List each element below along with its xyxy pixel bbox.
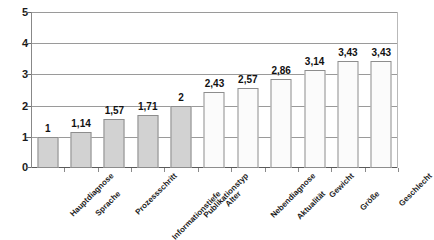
bar-slot: 3,43	[365, 12, 398, 168]
bar[interactable]	[271, 79, 292, 168]
bar-value-label: 1,71	[138, 102, 157, 112]
bar-value-label: 1,14	[71, 119, 90, 129]
bar-slot: 2	[164, 12, 197, 168]
bar-value-label: 3,43	[372, 48, 391, 58]
bar-value-label: 2,57	[238, 75, 257, 85]
bar[interactable]	[104, 119, 125, 168]
category-label: Aktualität	[296, 190, 327, 221]
bar[interactable]	[337, 61, 358, 168]
bar-value-label: 2,86	[271, 66, 290, 76]
bar-slot: 1,57	[98, 12, 131, 168]
bar[interactable]	[137, 115, 158, 168]
bar-value-label: 1	[45, 124, 51, 134]
category-label: Geschlecht	[398, 172, 434, 208]
category-label: Größe	[359, 190, 381, 212]
bar-slot: 3,14	[298, 12, 331, 168]
y-tick-label-4: 4	[6, 38, 28, 49]
y-tick-label-5: 5	[6, 7, 28, 18]
bar[interactable]	[37, 137, 58, 168]
bar-slot: 1,71	[131, 12, 164, 168]
bar[interactable]	[171, 106, 192, 168]
bar-value-label: 1,57	[105, 106, 124, 116]
bar-value-label: 2	[178, 93, 184, 103]
bar-value-label: 2,43	[205, 79, 224, 89]
bars-layer: 11,141,571,7122,432,572,863,143,433,43	[31, 12, 398, 168]
category-label: Prozessschritt	[135, 172, 180, 217]
y-tick-label-2: 2	[6, 100, 28, 111]
bar[interactable]	[204, 92, 225, 168]
category-label: Gewicht	[328, 172, 356, 200]
bar-value-label: 3,14	[305, 57, 324, 67]
category-label: Informationstiefe	[171, 190, 223, 240]
y-tick-label-1: 1	[6, 131, 28, 142]
bar[interactable]	[304, 70, 325, 168]
x-axis-category-labels: HauptdiagnoseSpracheProzessschrittInform…	[0, 168, 408, 234]
bar[interactable]	[71, 132, 92, 168]
bar-value-label: 3,43	[338, 48, 357, 58]
bar-slot: 1,14	[64, 12, 97, 168]
bar-slot: 1	[31, 12, 64, 168]
bar-slot: 2,57	[231, 12, 264, 168]
bar-slot: 3,43	[331, 12, 364, 168]
bar-slot: 2,43	[198, 12, 231, 168]
bar[interactable]	[371, 61, 392, 168]
y-tick-label-3: 3	[6, 69, 28, 80]
bar-slot: 2,86	[265, 12, 298, 168]
bar[interactable]	[237, 88, 258, 168]
